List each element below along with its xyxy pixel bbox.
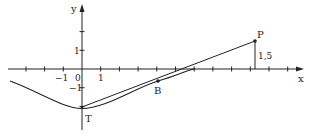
p-height-label: 1,5 — [258, 51, 273, 61]
y-axis — [80, 4, 85, 130]
point-t-label: T — [85, 113, 92, 124]
point-p-label: P — [257, 29, 264, 40]
origin-label: 0 — [75, 73, 81, 83]
x-tick-label-1: 1 — [98, 73, 104, 83]
y-axis-arrow-icon — [80, 4, 85, 12]
point-b-label: B — [154, 85, 161, 96]
line-tp — [82, 41, 255, 107]
x-tick-label-neg1: −1 — [55, 73, 68, 83]
x-axis-arrow-icon — [296, 67, 304, 72]
point-t-marker — [81, 106, 84, 109]
y-tick-label-neg1: −1 — [69, 83, 82, 93]
y-axis-label: y — [70, 3, 77, 14]
x-axis-label: x — [298, 73, 304, 84]
diagram: y x 0 −1 1 1 −1 T B P 1,5 — [0, 0, 317, 139]
point-b-marker — [156, 79, 160, 83]
y-tick-label-1: 1 — [74, 46, 80, 56]
diagram-canvas: y x 0 −1 1 1 −1 T B P 1,5 — [0, 0, 317, 139]
x-axis — [8, 67, 304, 72]
